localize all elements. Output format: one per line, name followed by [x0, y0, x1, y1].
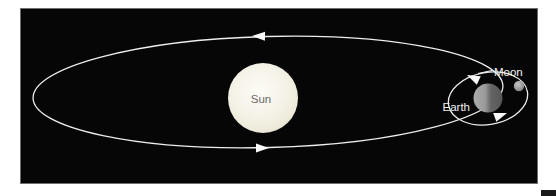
earth-circle — [474, 84, 503, 113]
partial-next-figure-corner — [541, 190, 556, 196]
moon-circle — [514, 81, 524, 91]
earth-orbit-arrow-top — [252, 31, 265, 40]
scanned-textbook-figure: Sun Earth Moon — [0, 0, 556, 196]
orbit-diagram-panel: Sun Earth Moon — [21, 9, 537, 183]
earth-label: Earth — [443, 101, 471, 113]
sun-label: Sun — [251, 93, 271, 105]
moon-label: Moon — [494, 66, 523, 78]
earth-orbit-arrow-bottom — [256, 143, 269, 152]
orbit-diagram: Sun Earth Moon — [21, 9, 537, 183]
